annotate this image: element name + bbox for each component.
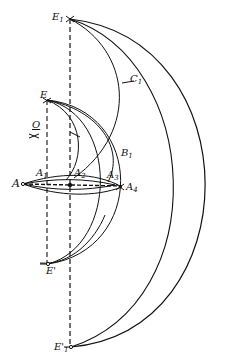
point-a [21, 182, 24, 185]
label-a1: A1 [36, 168, 48, 180]
label-a: A [12, 178, 20, 189]
label-b1: B1 [121, 148, 133, 160]
label-e-prime: E' [46, 266, 56, 276]
label-e1-prime: E'1 [54, 342, 69, 354]
tick-o [29, 134, 39, 138]
arc-outer-mid [70, 19, 173, 347]
label-o: O [32, 120, 40, 130]
arc-c1 [70, 19, 119, 178]
label-e1: E1 [52, 12, 64, 24]
label-a2: A2 [74, 168, 86, 180]
point-e1-prime [69, 345, 72, 348]
label-a4: A4 [126, 182, 138, 194]
line-a-a4 [23, 184, 122, 186]
label-a3: A3 [107, 170, 119, 182]
label-c1: C1 [130, 74, 142, 86]
label-e: E [40, 90, 47, 100]
tick-mid [70, 132, 80, 137]
arc-e-prime [40, 215, 105, 263]
point-a2 [68, 183, 72, 187]
